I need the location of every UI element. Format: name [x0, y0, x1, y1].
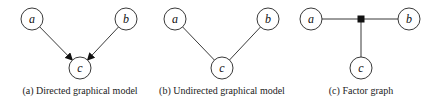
edge-a-a-c [40, 27, 73, 60]
node-label-b-b: b [265, 12, 271, 26]
factor-node [358, 16, 365, 23]
node-label-b-a: a [172, 12, 178, 26]
node-label-c-c: c [358, 61, 364, 75]
node-label-b-c: c [219, 61, 225, 75]
node-label-c-b: b [406, 12, 412, 26]
edge-b-a-c [183, 27, 215, 60]
node-label-c-a: a [308, 12, 314, 26]
node-label-a-c: c [77, 61, 83, 75]
node-label-a-a: a [29, 12, 35, 26]
caption-factor-graph: (c) Factor graph [329, 85, 393, 96]
edge-a-b-c [88, 27, 119, 60]
caption-undirected: (b) Undirected graphical model [159, 85, 285, 96]
node-label-a-b: b [123, 12, 129, 26]
edge-b-b-c [230, 27, 261, 60]
caption-directed: (a) Directed graphical model [22, 85, 137, 96]
